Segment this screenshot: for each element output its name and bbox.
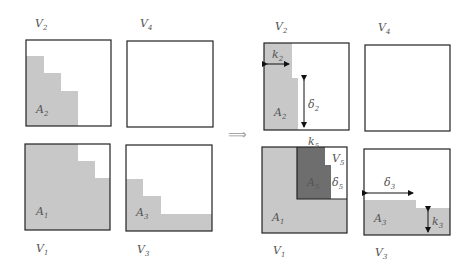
right-k5-label: k5 xyxy=(308,135,320,150)
left-v4-box xyxy=(127,41,213,127)
left-v1-cell: A1 V1 xyxy=(25,144,110,257)
right-delta2-label: δ2 xyxy=(308,98,320,113)
left-v2-cell: V2 A2 xyxy=(26,17,111,126)
right-v1-cell: k5 V5 δ5 A5 A1 V1 xyxy=(262,135,347,259)
right-v3-label: V3 xyxy=(375,246,388,261)
right-v2-label: V2 xyxy=(275,20,288,35)
left-v3-cell: A3 V3 xyxy=(126,145,212,258)
diagram-canvas: V2 A2 V4 A1 V1 A3 V3 ⟹ k2 δ2 A2 V2 V4 xyxy=(0,0,475,277)
left-a2-region xyxy=(26,56,78,126)
right-v3-cell: δ3 k3 A3 V3 xyxy=(364,149,450,261)
right-v1-label: V1 xyxy=(273,244,285,259)
left-v2-label: V2 xyxy=(35,17,48,32)
right-v2-cell: k2 δ2 A2 V2 xyxy=(264,20,349,130)
left-v1-label: V1 xyxy=(36,242,48,257)
left-v4-label: V4 xyxy=(140,17,152,32)
right-v4-cell: V4 xyxy=(365,21,450,131)
right-v4-box xyxy=(365,45,450,131)
right-delta3-label: δ3 xyxy=(384,176,396,191)
left-v3-label: V3 xyxy=(137,243,150,258)
left-v4-cell: V4 xyxy=(127,17,213,127)
right-v4-label: V4 xyxy=(378,21,390,36)
left-a3-region xyxy=(126,179,212,231)
implies-arrow-icon: ⟹ xyxy=(228,127,247,142)
